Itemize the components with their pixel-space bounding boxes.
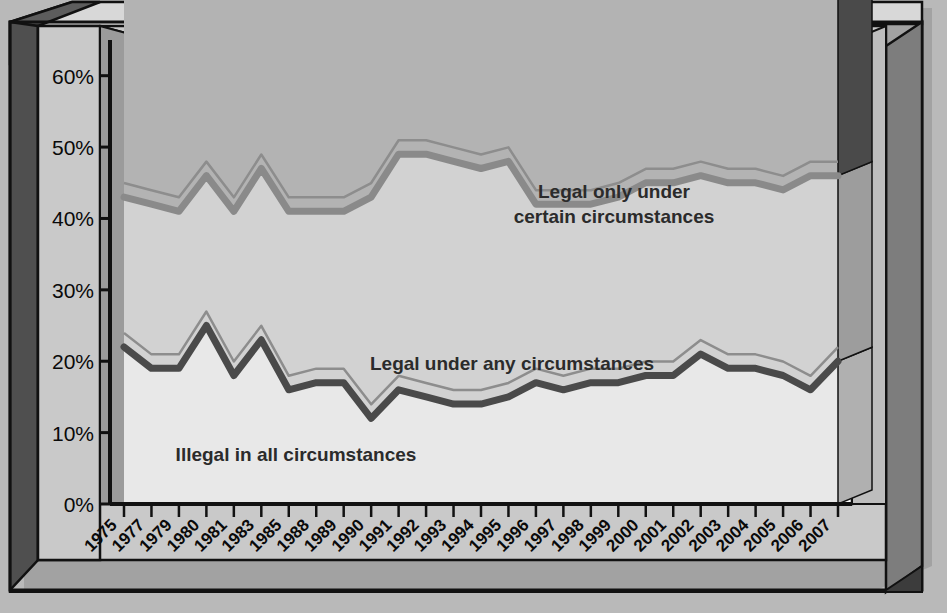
frame-right-wall [886, 22, 922, 592]
y-tick-label: 10% [52, 422, 94, 445]
series-depth-faces [838, 0, 872, 504]
series-annotation-line2: certain circumstances [514, 206, 715, 227]
stacked-area-chart: 0%10%20%30%40%50%60% 1975197719791980198… [0, 0, 947, 613]
series-annotation: Illegal in all circumstances [176, 444, 417, 465]
series-annotation: Legal under any circumstances [370, 353, 654, 374]
series-areas [124, 0, 838, 504]
y-tick-label: 50% [52, 136, 94, 159]
y-tick-label: 60% [52, 65, 94, 88]
y-tick-label: 40% [52, 207, 94, 230]
chart-canvas: 0%10%20%30%40%50%60% 1975197719791980198… [0, 0, 947, 613]
area-depth-face-0 [838, 347, 872, 504]
plot-area [124, 0, 886, 504]
frame-left-dark-wall [10, 22, 38, 590]
area-depth-face-1 [838, 162, 872, 362]
series-annotation: Legal only under [538, 181, 691, 202]
area-depth-face-2 [838, 0, 872, 176]
y-tick-label: 20% [52, 350, 94, 373]
y-tick-label: 30% [52, 279, 94, 302]
y-tick-label: 0% [64, 493, 94, 516]
